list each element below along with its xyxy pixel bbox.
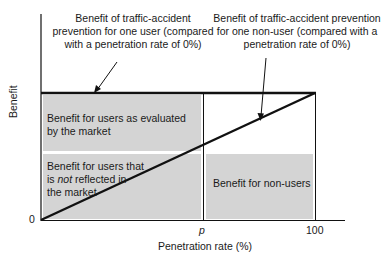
label-line: is not reflected in xyxy=(47,173,144,186)
label-line: Benefit for users that xyxy=(47,160,144,173)
annotation-line: prevention for one user (compared xyxy=(48,25,218,38)
y-axis-label: Benefit xyxy=(7,85,20,118)
label-users-not-reflected: Benefit for users that is not reflected … xyxy=(47,160,144,199)
annotation-nonuser-benefit: Benefit of traffic-accident prevention f… xyxy=(209,12,385,51)
origin-label: 0 xyxy=(29,213,35,226)
arrow-user-benefit xyxy=(97,62,117,90)
arrow-nonuser-benefit xyxy=(261,58,266,116)
p-tick-label: p xyxy=(199,224,205,237)
max-tick-label: 100 xyxy=(306,224,324,237)
annotation-line: for one non-user (compared with a xyxy=(209,25,385,38)
annotation-line: penetration rate of 0%) xyxy=(209,38,385,51)
label-line: the market xyxy=(47,186,144,199)
x-axis-label: Penetration rate (%) xyxy=(158,240,252,253)
label-nonusers: Benefit for non-users xyxy=(213,177,310,190)
label-line: by the market xyxy=(47,125,186,138)
text: reflected in xyxy=(72,173,126,185)
text: is xyxy=(47,173,58,185)
label-users-market: Benefit for users as evaluated by the ma… xyxy=(47,112,186,138)
emphasis-text: not xyxy=(58,173,73,185)
annotation-line: Benefit of traffic-accident xyxy=(48,12,218,25)
annotation-user-benefit: Benefit of traffic-accident prevention f… xyxy=(48,12,218,51)
annotation-line: with a penetration rate of 0%) xyxy=(48,38,218,51)
annotation-line: Benefit of traffic-accident prevention xyxy=(209,12,385,25)
label-line: Benefit for users as evaluated xyxy=(47,112,186,125)
